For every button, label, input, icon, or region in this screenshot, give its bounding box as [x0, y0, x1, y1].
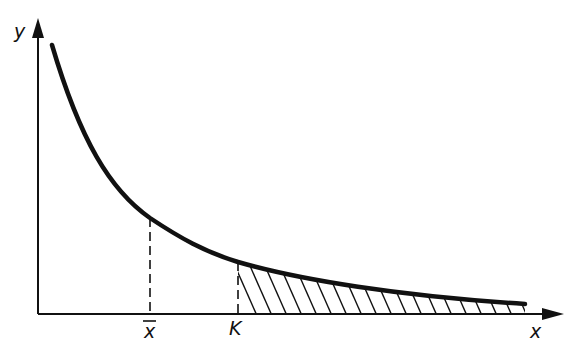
diagram-canvas: [0, 0, 583, 358]
x-axis-arrow-icon: [542, 308, 564, 320]
shaded-tail-region: [228, 250, 543, 318]
mean-label: x: [144, 322, 155, 341]
y-axis-arrow-icon: [32, 18, 44, 38]
threshold-label: K: [229, 319, 241, 338]
y-axis-label: y: [14, 22, 25, 41]
x-axis-label: x: [530, 322, 541, 341]
density-curve: [52, 45, 525, 304]
